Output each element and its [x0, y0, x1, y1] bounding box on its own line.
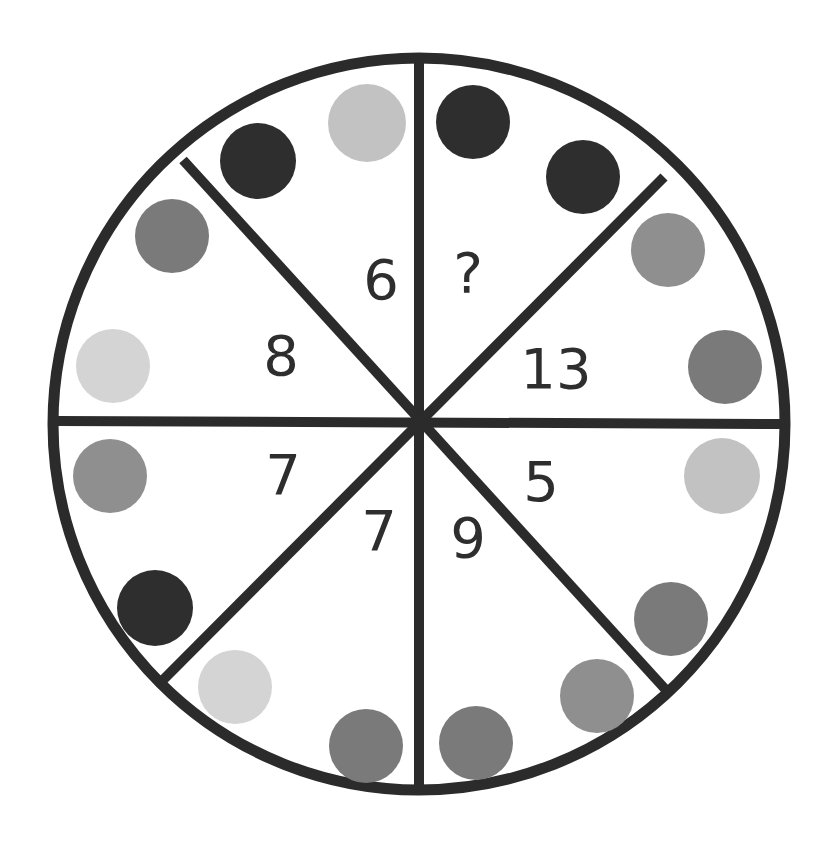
segment-number: 5 — [523, 449, 559, 514]
dot-dark-gray — [135, 199, 209, 273]
segment-number: 6 — [363, 247, 399, 312]
dot-dark-gray — [688, 330, 762, 404]
dot-mid-gray — [631, 213, 705, 287]
dot-dark-gray — [329, 709, 403, 783]
center-hub — [410, 415, 428, 433]
dot-dark-gray — [439, 706, 513, 780]
dot-black — [220, 123, 296, 199]
dot-black — [117, 570, 193, 646]
dot-dark-gray — [634, 582, 708, 656]
segment-number: 7 — [265, 442, 301, 507]
dot-light-gray — [328, 84, 406, 162]
dot-mid-gray — [560, 659, 634, 733]
segment-number: ? — [453, 240, 483, 305]
dot-black — [436, 85, 510, 159]
segment-number: 8 — [263, 323, 299, 388]
dot-pale-gray — [198, 650, 272, 724]
segment-number: 9 — [450, 505, 486, 570]
dot-mid-gray — [73, 439, 147, 513]
dot-light-gray — [684, 438, 760, 514]
dot-black — [546, 140, 620, 214]
segment-number: 7 — [361, 498, 397, 563]
wheel-puzzle: 6 ? 13 5 9 7 7 8 — [0, 0, 833, 848]
dot-pale-gray — [76, 329, 150, 403]
segment-number: 13 — [520, 336, 591, 401]
